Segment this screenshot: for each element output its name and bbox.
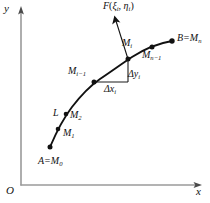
point-A-M0 [48, 145, 53, 150]
delta-y-label: Δyi [128, 69, 140, 79]
point-label-Mi-minus-1-subscript: i−1 [76, 70, 86, 77]
origin-label: O [6, 185, 14, 196]
point-label-B-equals-M: =M [183, 32, 198, 43]
point-label-M2-subscript: 2 [78, 114, 81, 121]
force-paren-close: ) [130, 0, 133, 11]
delta-y-text: Δy [128, 68, 138, 79]
point-label-M2: M2 [70, 110, 82, 120]
x-axis [21, 182, 202, 188]
curve-name-label: L [53, 108, 59, 118]
delta-x-label: Δxi [104, 84, 116, 94]
point-label-Mi: Mi [122, 38, 132, 48]
point-label-Mn-minus-1-subscript: n−1 [150, 54, 161, 61]
point-label-Mi-minus-1: Mi−1 [68, 66, 86, 76]
point-label-A-equals-M0: A=M0 [38, 156, 62, 166]
delta-y-subscript: i [138, 73, 140, 80]
point-label-A-equals-M: =M [44, 155, 59, 166]
y-axis [18, 6, 24, 185]
y-axis-label: y [4, 3, 9, 14]
x-axis-label: x [196, 186, 201, 197]
point-label-A-subscript: 0 [59, 160, 62, 167]
figure-canvas [0, 0, 210, 203]
point-label-M1-subscript: 1 [71, 132, 74, 139]
point-Mi-1 [92, 80, 97, 85]
point-Mi [126, 57, 131, 62]
point-M2 [64, 112, 69, 117]
point-label-B-subscript: n [198, 37, 201, 44]
delta-x-text: Δx [104, 83, 114, 94]
line-integral-figure: y x O F(ξi, ηi) Mi Mi−1 Mn−1 B=Mn Δyi Δx… [0, 0, 210, 203]
point-label-B-equals-Mn: B=Mn [177, 33, 201, 43]
point-label-Mn-minus-1: Mn−1 [142, 50, 161, 60]
point-label-Mi-subscript: i [130, 42, 132, 49]
delta-x-subscript: i [114, 88, 116, 95]
point-M1 [56, 127, 61, 132]
force-vector-label: F(ξi, ηi) [103, 1, 134, 11]
point-label-M1: M1 [63, 128, 75, 138]
point-B-Mn [169, 38, 174, 43]
